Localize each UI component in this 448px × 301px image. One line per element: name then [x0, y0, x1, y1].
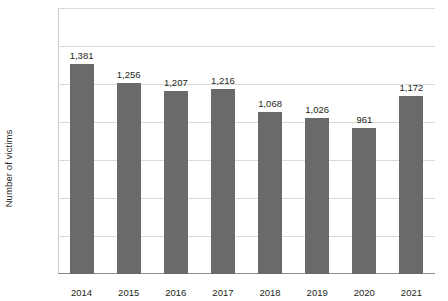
y-axis-line [58, 8, 59, 274]
bar[interactable] [352, 128, 376, 274]
gridline [58, 8, 435, 9]
bar-chart: Number of victims 02505007501,0001,2501,… [0, 0, 448, 301]
bar[interactable] [164, 91, 188, 274]
bar[interactable] [117, 83, 141, 274]
gridline [58, 198, 435, 199]
gridline [58, 236, 435, 237]
bar-value-label: 961 [334, 114, 394, 125]
bar-value-label: 1,381 [52, 50, 112, 61]
bar-value-label: 1,172 [381, 82, 441, 93]
gridline [58, 46, 435, 47]
y-axis-title: Number of victims [0, 18, 18, 301]
x-tick-label: 2021 [381, 287, 441, 298]
bar[interactable] [258, 112, 282, 274]
bar[interactable] [399, 96, 423, 274]
x-axis-baseline [58, 273, 435, 275]
bar-value-label: 1,216 [193, 75, 253, 86]
bar[interactable] [211, 89, 235, 274]
plot-area: 02505007501,0001,2501,5001,750 1,3811,25… [58, 8, 435, 274]
gridline [58, 160, 435, 161]
bar[interactable] [70, 64, 94, 274]
bar[interactable] [305, 118, 329, 274]
